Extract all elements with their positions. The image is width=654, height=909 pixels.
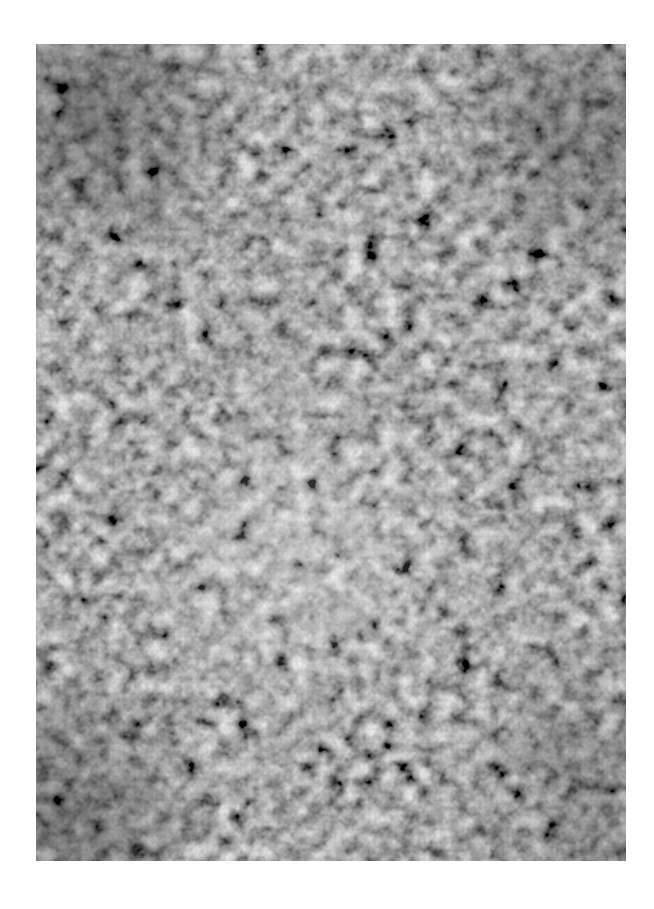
speckle-texture-photo — [36, 44, 626, 861]
speckle-noise — [36, 44, 626, 861]
